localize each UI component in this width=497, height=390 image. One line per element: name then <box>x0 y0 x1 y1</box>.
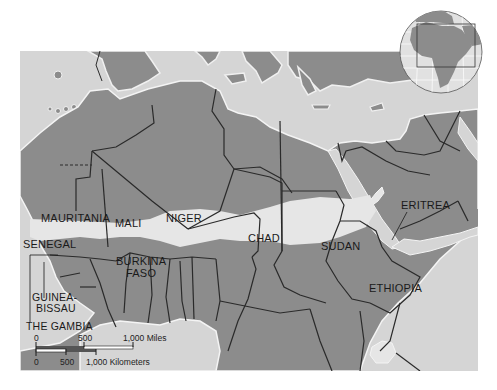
scale-miles-0: 0 <box>34 333 39 343</box>
scale-bar-graphic <box>36 342 133 356</box>
scale-km-500: 500 <box>60 357 74 367</box>
scale-km-1000: 1,000 Kilometers <box>86 357 150 367</box>
label-the-gambia: THE GAMBIA <box>26 320 93 332</box>
locator-globe <box>392 0 490 98</box>
label-bissau: BISSAU <box>36 302 76 314</box>
scale-km-0: 0 <box>34 357 39 367</box>
scale-miles-500: 500 <box>78 333 92 343</box>
scale-miles-1000: 1,000 Miles <box>123 333 166 343</box>
